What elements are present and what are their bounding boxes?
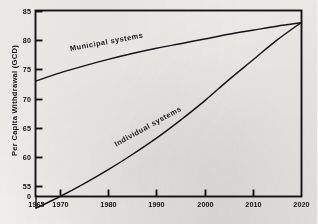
plot-border <box>36 11 302 197</box>
x-tick-label: 2020 <box>282 200 318 209</box>
x-tick-label: 2000 <box>186 200 226 209</box>
y-tick-label: 75 <box>6 65 31 74</box>
y-tick-label: 65 <box>6 124 31 133</box>
y-tick-label: 80 <box>6 36 31 45</box>
x-tick-label: 1990 <box>137 200 177 209</box>
y-tick-label: 55 <box>6 182 31 191</box>
x-axis-ticks <box>61 190 254 197</box>
x-tick-label: 2010 <box>234 200 274 209</box>
x-tick-label: 1980 <box>89 200 129 209</box>
x-tick-label: 1970 <box>41 200 81 209</box>
chart-plot-area <box>0 0 317 224</box>
y-tick-label: 70 <box>6 95 31 104</box>
y-axis-ticks <box>36 12 43 197</box>
y-tick-label: 60 <box>6 153 31 162</box>
y-tick-label: 85 <box>6 7 31 16</box>
figure-canvas: Per Capita Withdrawal (GCD) 055606570758… <box>0 0 317 224</box>
